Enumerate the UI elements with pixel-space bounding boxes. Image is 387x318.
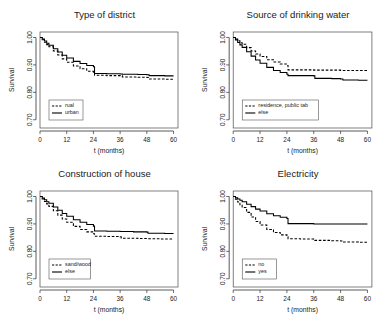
y-tick-label: 0.80 [26,86,33,99]
x-tick-label: 60 [170,295,178,302]
panel-title: Construction of house [58,168,150,179]
y-tick-label: 0.90 [26,217,33,230]
chart-panel: Source of drinking water012243648600.700… [193,0,387,159]
legend-label: rual [65,102,74,108]
y-tick-label: 0.70 [219,113,226,126]
survival-curve [40,196,174,239]
legend-label: else [258,109,268,115]
x-tick-label: 36 [117,295,125,302]
survival-figure: Type of district012243648600.700.800.901… [0,0,387,318]
panel-title: Source of drinking water [247,9,351,20]
y-axis-title: Survival [8,226,15,251]
x-axis-title: t (months) [94,147,125,155]
y-tick-label: 0.90 [219,58,226,71]
survival-curve [233,196,367,223]
x-tick-label: 24 [283,295,291,302]
legend-label: sand/wood [65,261,91,267]
y-axis-title: Survival [201,67,208,92]
y-tick-label: 0.90 [26,58,33,71]
y-tick-label: 1.00 [219,190,226,203]
y-tick-label: 0.80 [219,86,226,99]
x-tick-label: 12 [63,136,71,143]
panel-title: Type of district [74,9,136,20]
x-tick-label: 60 [364,295,372,302]
x-tick-label: 24 [283,136,291,143]
x-tick-label: 24 [90,295,98,302]
y-tick-label: 0.70 [26,272,33,285]
x-tick-label: 48 [337,295,345,302]
chart-panel: Electricity012243648600.700.800.901.00t … [193,159,387,318]
y-tick-label: 0.70 [219,272,226,285]
x-tick-label: 48 [143,136,151,143]
x-tick-label: 0 [38,295,42,302]
survival-curve [233,196,367,242]
legend-label: residence, public tab [258,102,308,108]
x-tick-label: 36 [117,136,125,143]
x-tick-label: 12 [63,295,71,302]
x-tick-label: 12 [256,136,264,143]
legend-label: else [65,268,75,274]
y-tick-label: 0.80 [26,245,33,258]
y-tick-label: 1.00 [26,190,33,203]
survival-curve [233,37,367,80]
x-tick-label: 36 [310,136,318,143]
y-tick-label: 0.80 [219,245,226,258]
legend-label: urban [65,109,79,115]
x-tick-label: 0 [231,136,235,143]
x-tick-label: 60 [364,136,372,143]
x-axis-title: t (months) [287,306,318,314]
y-tick-label: 0.70 [26,113,33,126]
legend-label: yes [258,268,267,274]
x-axis-title: t (months) [94,306,125,314]
x-tick-label: 12 [256,295,264,302]
x-axis-title: t (months) [287,147,318,155]
x-tick-label: 0 [38,136,42,143]
x-tick-label: 48 [143,295,151,302]
x-tick-label: 48 [337,136,345,143]
x-tick-label: 36 [310,295,318,302]
x-tick-label: 24 [90,136,98,143]
survival-curve [233,37,367,70]
chart-panel: Type of district012243648600.700.800.901… [0,0,193,159]
y-tick-label: 1.00 [219,31,226,44]
y-tick-label: 0.90 [219,217,226,230]
x-tick-label: 60 [170,136,178,143]
y-tick-label: 1.00 [26,31,33,44]
y-axis-title: Survival [201,226,208,251]
survival-curve [40,37,174,75]
x-tick-label: 0 [231,295,235,302]
chart-panel: Construction of house012243648600.700.80… [0,159,193,318]
panel-title: Electricity [278,168,319,179]
legend-label: no [258,261,264,267]
survival-curve [40,196,174,233]
y-axis-title: Survival [8,67,15,92]
